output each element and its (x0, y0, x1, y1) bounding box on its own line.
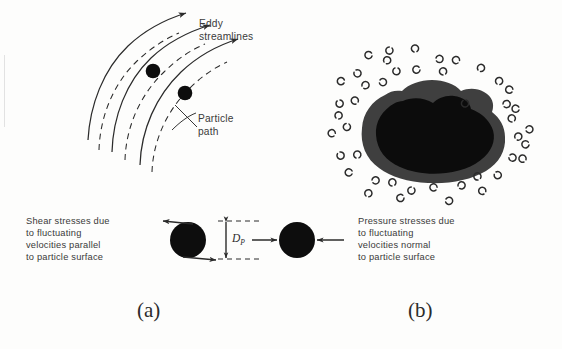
shear-caption-line2: to fluctuating (26, 228, 82, 239)
diameter-symbol-label: DP (232, 232, 245, 247)
pressure-caption-line2: to fluctuating (358, 228, 414, 239)
streamline-3 (140, 39, 238, 165)
shear-arrow-bottom (183, 257, 216, 260)
figure-container: Eddy streamlines Particle path Shear str… (0, 0, 562, 349)
particle-path-leader-curve (172, 113, 196, 130)
particle-path-label-line2: path (198, 126, 219, 138)
shear-stress-diagram (163, 221, 216, 260)
pressure-stress-diagram (252, 222, 344, 258)
particle-lower (178, 86, 193, 101)
streamline-2 (112, 25, 210, 152)
shear-caption-line4: to particle surface (26, 252, 103, 263)
shear-particle (170, 222, 206, 258)
pressure-caption-line3: velocities normal (358, 240, 431, 251)
shear-caption-line1: Shear stresses due (26, 216, 110, 227)
caption-a: (a) (137, 298, 160, 323)
caption-b: (b) (408, 298, 433, 323)
particle-upper (146, 64, 161, 79)
pressure-caption-line1: Pressure stresses due (358, 216, 455, 227)
figure-artwork (0, 0, 562, 349)
eddy-streamlines-label-line2: streamlines (199, 31, 253, 43)
pressure-caption-line4: to particle surface (358, 252, 435, 263)
streamline-1 (88, 13, 186, 140)
panel-b-blob-group (327, 44, 534, 206)
particle-path-dashed-1 (99, 33, 179, 150)
eddy-streamlines-label-line1: Eddy (199, 18, 223, 30)
shear-caption-line3: velocities parallel (26, 240, 101, 251)
pressure-particle (279, 222, 315, 258)
particle-path-label-line1: Particle (198, 113, 234, 125)
diameter-subscript: P (240, 238, 245, 247)
